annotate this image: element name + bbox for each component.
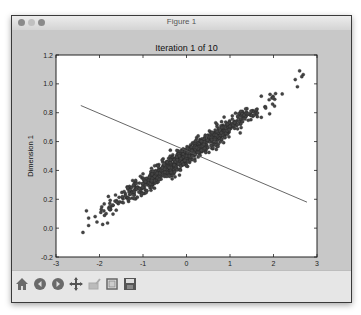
chart-title: Iteration 1 of 10: [155, 43, 218, 53]
y-tick-label: 1.2: [43, 52, 53, 59]
forward-arrow-icon: [51, 277, 65, 291]
x-tick-label: -3: [53, 260, 59, 267]
x-tick-label: 2: [272, 260, 276, 267]
figure-canvas[interactable]: Iteration 1 of 10-3-2-10123-0.20.00.20.4…: [12, 30, 351, 273]
y-tick-label: 0.6: [43, 138, 53, 145]
home-button[interactable]: [15, 277, 29, 291]
y-axis-label: Dimension 1: [26, 135, 35, 177]
x-tick-label: 0: [185, 260, 189, 267]
x-tick-label: 3: [315, 260, 319, 267]
y-tick-label: 1.0: [43, 80, 53, 87]
pan-move-icon: [69, 277, 83, 291]
zoom-rect-icon: [87, 277, 101, 291]
zoom-button[interactable]: [87, 277, 101, 291]
forward-button[interactable]: [51, 277, 65, 291]
window-title: Figure 1: [12, 17, 351, 26]
back-arrow-icon: [33, 277, 47, 291]
figure-window: Figure 1 Iteration 1 of 10-3-2-10123-0.2…: [11, 15, 352, 303]
y-tick-label: 0.2: [43, 196, 53, 203]
scatter-plot: Iteration 1 of 10-3-2-10123-0.20.00.20.4…: [12, 30, 353, 273]
subplots-button[interactable]: [105, 277, 119, 291]
title-bar[interactable]: Figure 1: [12, 16, 351, 31]
pan-button[interactable]: [69, 277, 83, 291]
y-tick-label: 0.4: [43, 167, 53, 174]
back-button[interactable]: [33, 277, 47, 291]
navigation-toolbar: [12, 270, 351, 302]
home-icon: [15, 277, 29, 291]
subplots-config-icon: [105, 277, 119, 291]
save-floppy-icon: [123, 277, 137, 291]
y-tick-label: 0.8: [43, 109, 53, 116]
x-tick-label: -2: [96, 260, 102, 267]
y-tick-label: 0.0: [43, 225, 53, 232]
y-tick-label: -0.2: [41, 254, 53, 261]
save-button[interactable]: [123, 277, 137, 291]
x-tick-label: -1: [140, 260, 146, 267]
x-tick-label: 1: [228, 260, 232, 267]
